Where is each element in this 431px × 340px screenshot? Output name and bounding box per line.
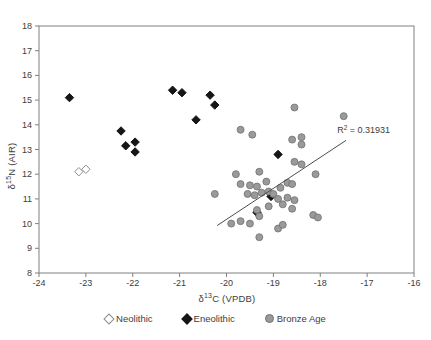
legend-item-bronze-age: Bronze Age	[265, 313, 326, 324]
plot-area-frame	[39, 26, 414, 273]
x-tick-label: -17	[361, 278, 374, 288]
legend-item-eneolithic: Eneolithic	[183, 313, 235, 324]
data-point	[228, 220, 235, 227]
data-point	[289, 136, 296, 143]
y-tick-label: 10	[22, 219, 32, 229]
circle-icon	[265, 314, 274, 323]
legend-label-bronze-age: Bronze Age	[277, 313, 326, 324]
y-tick-label: 16	[22, 70, 32, 80]
x-tick-label: -20	[220, 278, 233, 288]
data-point	[246, 220, 253, 227]
y-tick-label: 18	[22, 21, 32, 31]
legend-item-neolithic: Neolithic	[105, 313, 152, 324]
open-diamond-icon	[103, 313, 114, 324]
scatter-chart: -24-23-22-21-20-19-18-17-16 891011121314…	[0, 0, 431, 340]
data-point	[65, 93, 73, 101]
data-point	[291, 104, 298, 111]
data-point	[274, 150, 282, 158]
x-tick-label: -21	[173, 278, 186, 288]
series-neolithic	[75, 165, 90, 176]
x-tick-label: -24	[32, 278, 45, 288]
x-tick-label: -18	[314, 278, 327, 288]
data-point	[122, 142, 130, 150]
data-point	[291, 197, 298, 204]
legend: Neolithic Eneolithic Bronze Age	[0, 313, 431, 324]
data-point	[249, 131, 256, 138]
data-point	[211, 190, 218, 197]
y-tick-label: 17	[22, 46, 32, 56]
y-tick-label: 12	[22, 169, 32, 179]
x-axis-title: δ13C (VPDB)	[39, 292, 415, 304]
data-point	[237, 181, 244, 188]
data-point	[279, 201, 286, 208]
data-point	[192, 116, 200, 124]
data-point	[237, 126, 244, 133]
y-tick-label: 8	[27, 268, 32, 278]
y-axis-title: δ15N (AIR)	[5, 143, 17, 190]
data-point	[237, 218, 244, 225]
data-point	[206, 91, 214, 99]
data-point	[256, 213, 263, 220]
data-point	[298, 141, 305, 148]
r-squared-label: R2 = 0.31931	[337, 124, 390, 135]
data-point	[289, 205, 296, 212]
y-tick-label: 14	[22, 120, 32, 130]
data-point	[314, 214, 321, 221]
data-point	[291, 158, 298, 165]
data-point	[256, 168, 263, 175]
data-point	[298, 161, 305, 168]
filled-diamond-icon	[181, 313, 192, 324]
data-points-layer	[65, 86, 347, 241]
legend-label-eneolithic: Eneolithic	[194, 313, 235, 324]
x-tick-label: -22	[126, 278, 139, 288]
data-point	[312, 171, 319, 178]
data-point	[265, 203, 272, 210]
data-point	[251, 192, 258, 199]
data-point	[298, 134, 305, 141]
y-tick-label: 11	[23, 194, 32, 204]
data-point	[168, 86, 176, 94]
y-axis-ticks: 89101112131415161718	[22, 21, 39, 278]
data-point	[232, 171, 239, 178]
series-bronze-age	[211, 104, 347, 241]
data-point	[244, 190, 251, 197]
data-point	[253, 183, 260, 190]
plot-svg: -24-23-22-21-20-19-18-17-16 891011121314…	[0, 0, 431, 340]
x-tick-label: -16	[407, 278, 420, 288]
data-point	[211, 101, 219, 109]
y-tick-label: 13	[22, 145, 32, 155]
legend-label-neolithic: Neolithic	[116, 313, 152, 324]
x-tick-label: -19	[267, 278, 280, 288]
y-tick-label: 15	[22, 95, 32, 105]
data-point	[284, 194, 291, 201]
data-point	[289, 181, 296, 188]
y-tick-label: 9	[27, 243, 32, 253]
data-point	[246, 182, 253, 189]
data-point	[258, 189, 265, 196]
data-point	[340, 113, 347, 120]
data-point	[117, 127, 125, 135]
data-point	[256, 234, 263, 241]
x-tick-label: -23	[79, 278, 92, 288]
data-point	[279, 221, 286, 228]
data-point	[131, 138, 139, 146]
x-axis-ticks: -24-23-22-21-20-19-18-17-16	[32, 273, 420, 288]
data-point	[263, 178, 270, 185]
data-point	[131, 148, 139, 156]
data-point	[178, 88, 186, 96]
